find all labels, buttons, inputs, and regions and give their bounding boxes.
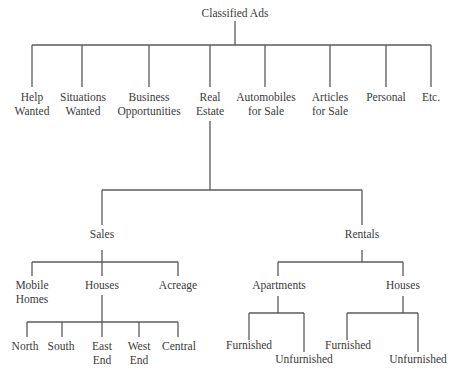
node-label: Houses: [386, 279, 420, 293]
node-label: Furnished: [226, 339, 272, 353]
node-apartments-unfurnished: Unfurnished: [275, 353, 333, 367]
node-label: Homes: [15, 293, 48, 307]
node-label: Automobiles: [236, 91, 295, 105]
node-label: for Sale: [236, 105, 295, 119]
node-label: Real: [196, 91, 224, 105]
node-label: for Sale: [312, 105, 348, 119]
node-label: Wanted: [15, 105, 50, 119]
node-apartments: Apartments: [252, 279, 306, 293]
node-personal: Personal: [366, 91, 406, 105]
node-label: Opportunities: [117, 105, 180, 119]
node-rentals: Rentals: [345, 228, 380, 242]
node-sales: Sales: [90, 228, 114, 242]
node-north: North: [12, 340, 39, 354]
node-label: South: [48, 340, 75, 354]
node-label: Estate: [196, 105, 224, 119]
node-label: Help: [15, 91, 50, 105]
node-apartments-furnished: Furnished: [226, 339, 272, 353]
node-label: End: [128, 354, 151, 368]
node-label: Acreage: [159, 279, 197, 293]
node-label: Apartments: [252, 279, 306, 293]
node-situations-wanted: Situations Wanted: [60, 91, 106, 118]
node-label: Houses: [85, 279, 119, 293]
node-label: Furnished: [325, 339, 371, 353]
node-business-opportunities: Business Opportunities: [117, 91, 180, 118]
node-mobile-homes: Mobile Homes: [15, 279, 48, 306]
node-label: Wanted: [60, 105, 106, 119]
node-south: South: [48, 340, 75, 354]
node-acreage: Acreage: [159, 279, 197, 293]
node-help-wanted: Help Wanted: [15, 91, 50, 118]
node-real-estate: Real Estate: [196, 91, 224, 118]
node-label: Unfurnished: [275, 353, 333, 367]
node-label: Sales: [90, 228, 114, 242]
node-classified-ads: Classified Ads: [202, 7, 269, 21]
node-label: Personal: [366, 91, 406, 105]
node-label: Articles: [312, 91, 348, 105]
node-houses-furnished: Furnished: [325, 339, 371, 353]
node-label: North: [12, 340, 39, 354]
node-label: Rentals: [345, 228, 380, 242]
node-west-end: West End: [128, 340, 151, 367]
node-label: Unfurnished: [389, 353, 447, 367]
node-label: Central: [162, 340, 196, 354]
node-houses-unfurnished: Unfurnished: [389, 353, 447, 367]
node-rental-houses: Houses: [386, 279, 420, 293]
node-articles-for-sale: Articles for Sale: [312, 91, 348, 118]
node-label: End: [92, 354, 112, 368]
node-automobiles-for-sale: Automobiles for Sale: [236, 91, 295, 118]
node-etc: Etc.: [422, 91, 440, 105]
node-label: Mobile: [15, 279, 48, 293]
node-label: Business: [117, 91, 180, 105]
node-label: Classified Ads: [202, 7, 269, 21]
node-label: West: [128, 340, 151, 354]
tree-connectors: [0, 0, 457, 377]
node-central: Central: [162, 340, 196, 354]
node-label: East: [92, 340, 112, 354]
node-label: Situations: [60, 91, 106, 105]
node-sales-houses: Houses: [85, 279, 119, 293]
node-label: Etc.: [422, 91, 440, 105]
node-east-end: East End: [92, 340, 112, 367]
